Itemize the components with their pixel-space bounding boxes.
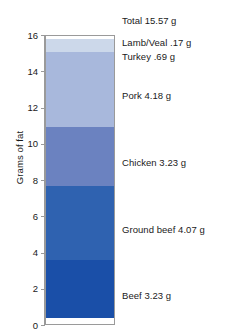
bar-segment-chicken (46, 127, 114, 186)
plot-area (45, 35, 115, 325)
y-tick-label-0: 0 (18, 321, 38, 331)
series-label-turkey: Turkey .69 g (122, 52, 175, 62)
bar-segment-pork (46, 52, 114, 128)
bar-segment-beef (46, 260, 114, 319)
y-tick-label-14: 14 (18, 67, 38, 77)
series-label-chicken: Chicken 3.23 g (122, 158, 186, 168)
y-axis-tick-labels: 16 14 12 10 8 6 4 2 0 (14, 0, 38, 335)
series-label-ground-beef: Ground beef 4.07 g (122, 225, 205, 235)
stacked-bar-chart: Grams of fat 16 14 12 10 8 6 4 2 0 Total… (0, 0, 225, 335)
y-tick-label-8: 8 (18, 176, 38, 186)
y-tick-label-12: 12 (18, 103, 38, 113)
series-label-beef: Beef 3.23 g (122, 291, 171, 301)
y-tick-label-2: 2 (18, 284, 38, 294)
stacked-bar (45, 35, 115, 325)
bar-segment-ground-beef (46, 186, 114, 260)
bar-segment-turkey (46, 39, 114, 52)
y-tick-label-16: 16 (18, 31, 38, 41)
series-label-lamb-veal: Lamb/Veal .17 g (122, 38, 191, 48)
y-tick-label-4: 4 (18, 248, 38, 258)
series-label-pork: Pork 4.18 g (122, 91, 171, 101)
y-tick-label-10: 10 (18, 139, 38, 149)
total-annotation: Total 15.57 g (122, 16, 176, 26)
y-tick-label-6: 6 (18, 212, 38, 222)
y-tick-mark-0 (41, 325, 45, 326)
